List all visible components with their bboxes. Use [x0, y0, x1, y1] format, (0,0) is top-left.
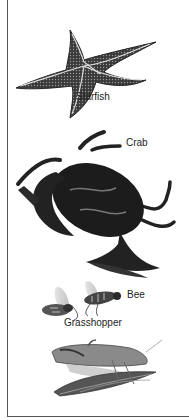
label-grasshopper: Grasshopper — [64, 317, 122, 328]
organism-illustrations — [0, 0, 189, 420]
label-bee: Bee — [127, 289, 145, 300]
starfish-illustration — [16, 30, 156, 118]
label-starfish: Starfish — [76, 91, 110, 102]
bee-illustration — [42, 279, 121, 320]
label-crab: Crab — [126, 137, 148, 148]
grasshopper-illustration — [52, 340, 162, 396]
crab-illustration — [18, 132, 174, 278]
